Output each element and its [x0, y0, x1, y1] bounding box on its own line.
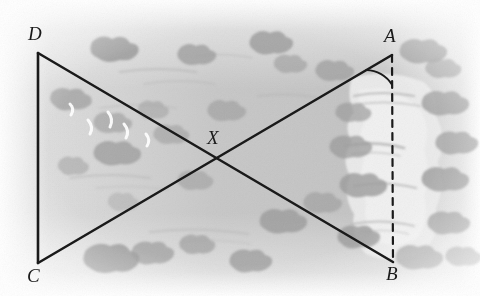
vertex-label-B: B [386, 264, 398, 283]
vertex-label-D: D [28, 24, 42, 43]
geometry-diagram: D A C B X [0, 0, 480, 296]
vertex-label-X: X [207, 128, 219, 147]
vertex-label-A: A [384, 26, 396, 45]
vertex-label-C: C [27, 266, 40, 285]
diagram-canvas [0, 0, 480, 296]
paper-grain [0, 0, 480, 296]
segment-AB [392, 55, 393, 262]
